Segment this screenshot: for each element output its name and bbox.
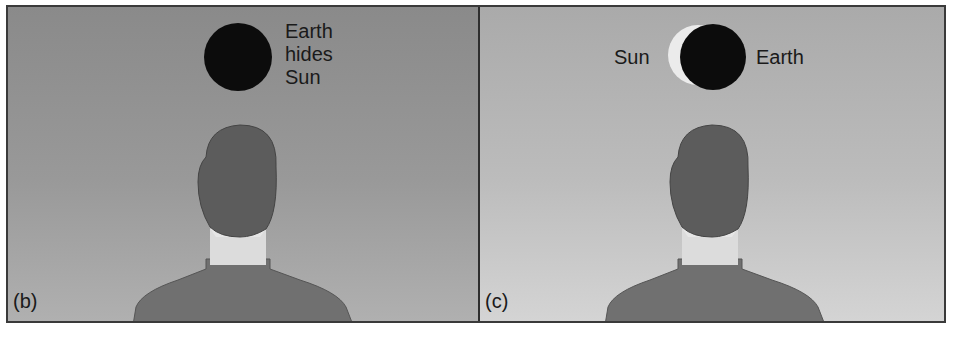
panel-c-tag: (c)	[485, 290, 508, 313]
earth-label: Earth	[756, 46, 804, 69]
earth-disk-icon	[204, 23, 272, 91]
sun-label: Sun	[614, 46, 650, 69]
panel-c-illustration	[480, 7, 944, 321]
earth-hides-sun-caption: Earth hides Sun	[285, 20, 333, 89]
panel-b-tag: (b)	[13, 290, 37, 313]
figure-frame: Earth hides Sun (b) Sun Earth (c)	[6, 5, 946, 323]
panel-c: Sun Earth (c)	[478, 7, 944, 321]
panel-b-illustration	[8, 7, 478, 321]
earth-disk-icon	[680, 24, 746, 90]
caption-line-3: Sun	[285, 66, 333, 89]
observer-figure-icon	[133, 125, 353, 321]
caption-line-2: hides	[285, 43, 333, 66]
observer-figure-icon	[605, 125, 825, 321]
panel-b: Earth hides Sun (b)	[8, 7, 478, 321]
caption-line-1: Earth	[285, 20, 333, 43]
